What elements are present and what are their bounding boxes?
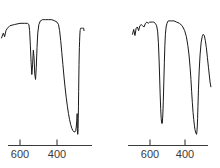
spectrum-panel-left: 600 400	[0, 0, 110, 168]
spectra-figure: 600 400 600 400	[0, 0, 220, 168]
x-axis-tick-label-left-600: 600	[11, 148, 29, 160]
spectrum-plot-left: 600 400	[0, 0, 110, 168]
spectrum-plot-right: 600 400	[110, 0, 220, 168]
x-axis-tick-label-right-600: 600	[141, 148, 159, 160]
spectrum-trace-left	[2, 20, 85, 135]
spectrum-panel-right: 600 400	[110, 0, 220, 168]
x-axis-tick-label-left-400: 400	[48, 148, 66, 160]
spectrum-trace-right	[133, 21, 211, 134]
x-axis-tick-label-right-400: 400	[176, 148, 194, 160]
